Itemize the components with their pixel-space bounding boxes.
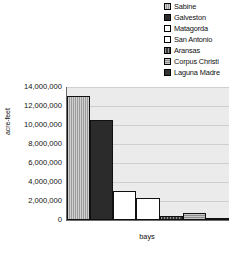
legend-swatch-icon [164,3,171,10]
legend-swatch-icon [164,69,171,76]
legend-label: Sabine [174,2,196,11]
y-axis-tick-label: 4,000,000 [28,178,62,186]
y-axis-tick-label: 8,000,000 [28,140,62,148]
legend-label: Corpus Christi [174,57,219,66]
bar[interactable] [90,120,113,220]
legend-item[interactable]: Aransas [164,45,243,55]
y-axis-tick-labels: 14,000,00012,000,00010,000,0008,000,0006… [8,83,65,220]
bar[interactable] [136,198,159,220]
legend-label: Aransas [174,46,200,55]
plot-inner [67,87,229,220]
legend-swatch-icon [164,25,171,32]
bar[interactable] [183,213,206,220]
legend-item[interactable]: San Antonio [164,34,243,44]
y-axis-tick-label: 14,000,000 [24,83,62,91]
plot-area [66,87,229,221]
bar-slot [113,87,136,220]
bar[interactable] [67,96,90,220]
y-axis-tick-label: 0 [58,216,62,224]
legend-item[interactable]: Corpus Christi [164,56,243,66]
bar-slot [183,87,206,220]
legend-swatch-icon [164,58,171,65]
bar-slot [136,87,159,220]
legend-label: Galveston [174,13,206,22]
bar[interactable] [113,191,136,220]
legend-swatch-icon [164,47,171,54]
bar-slot [160,87,183,220]
legend-item[interactable]: Galveston [164,12,243,22]
bar[interactable] [206,218,229,220]
bar-slot [67,87,90,220]
legend-item[interactable]: Laguna Madre [164,67,243,77]
y-axis-tick-label: 6,000,000 [28,159,62,167]
y-axis-tick-label: 2,000,000 [28,197,62,205]
legend-item[interactable]: Matagorda [164,23,243,33]
legend-swatch-icon [164,14,171,21]
chart-legend: SabineGalvestonMatagordaSan AntonioArans… [164,1,243,77]
bar[interactable] [160,216,183,220]
bar-series [67,87,229,220]
x-axis-title: bays [66,232,228,241]
y-axis-tick-label: 12,000,000 [24,102,62,110]
y-axis-tick-label: 10,000,000 [24,121,62,129]
bar-chart: SabineGalvestonMatagordaSan AntonioArans… [0,0,243,256]
bar-slot [206,87,229,220]
legend-item[interactable]: Sabine [164,1,243,11]
legend-label: San Antonio [174,35,212,44]
bar-slot [90,87,113,220]
legend-swatch-icon [164,36,171,43]
legend-label: Matagorda [174,24,208,33]
legend-label: Laguna Madre [174,68,220,77]
